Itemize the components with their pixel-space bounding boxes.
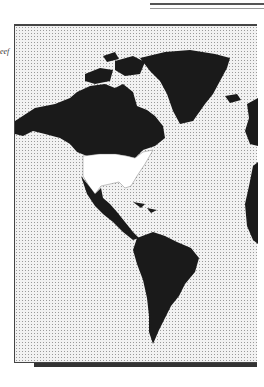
- frame-shadow: [34, 363, 257, 367]
- map-frame: [14, 24, 257, 363]
- caption-fragment: eef: [0, 47, 9, 56]
- africa: [245, 162, 258, 244]
- header-rule: [150, 3, 264, 5]
- canada-alaska: [15, 84, 165, 158]
- header-rule-thin: [150, 8, 264, 9]
- usa-highlighted: [83, 150, 153, 194]
- greenland: [140, 50, 230, 124]
- americas-map: [15, 26, 258, 365]
- south-america: [133, 232, 199, 344]
